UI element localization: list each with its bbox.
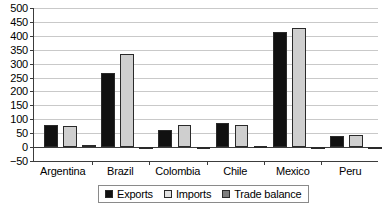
y-axis-tick-label: 400 (10, 30, 28, 41)
bar-groups (35, 8, 378, 161)
bar-group (321, 8, 378, 161)
bar-brazil-exports (101, 73, 115, 148)
bar-chart: 500450400350300250200150100500−50 Argent… (0, 0, 386, 207)
bar-brazil-imports (120, 54, 134, 147)
x-axis-label-mexico: Mexico (264, 165, 322, 178)
y-axis-tick-label: 150 (10, 100, 28, 111)
bar-group (92, 8, 149, 161)
bar-group (35, 8, 92, 161)
x-axis-label-brazil: Brazil (92, 165, 150, 178)
bar-mexico-imports (292, 28, 306, 147)
y-axis-tick-label: 300 (10, 58, 28, 69)
bar-chile-exports (216, 123, 230, 147)
y-axis-tick (30, 133, 34, 134)
legend: ExportsImportsTrade balance (98, 185, 309, 203)
x-axis-label-colombia: Colombia (149, 165, 207, 178)
bar-peru-trade-balance (368, 147, 382, 149)
y-axis-tick (30, 91, 34, 92)
y-axis-tick (30, 64, 34, 65)
legend-label: Imports (176, 188, 211, 200)
bar-colombia-imports (178, 125, 192, 148)
bar-argentina-exports (44, 125, 58, 147)
y-axis-tick-label: 200 (10, 86, 28, 97)
bar-argentina-imports (63, 126, 77, 147)
y-axis-tick-label: 100 (10, 114, 28, 125)
y-axis-tick-label: 0 (22, 142, 28, 153)
y-axis-tick (30, 36, 34, 37)
y-axis-tick-label: 500 (10, 3, 28, 14)
bar-group (264, 8, 321, 161)
legend-item-exports[interactable]: Exports (105, 188, 153, 200)
bar-colombia-exports (158, 130, 172, 147)
bar-group-bars (35, 8, 92, 161)
y-axis-tick (30, 119, 34, 120)
y-axis-tick-label: −50 (10, 156, 28, 167)
y-axis-tick-label: 250 (10, 72, 28, 83)
bar-peru-imports (349, 135, 363, 147)
x-axis-label-chile: Chile (207, 165, 265, 178)
bar-group (149, 8, 206, 161)
bar-mexico-exports (273, 32, 287, 147)
y-axis-tick (30, 105, 34, 106)
y-axis-tick-label: 350 (10, 44, 28, 55)
bar-chile-imports (235, 125, 249, 148)
y-axis-tick (30, 22, 34, 23)
y-axis-tick-label: 450 (10, 16, 28, 27)
legend-label: Exports (117, 188, 153, 200)
y-axis-tick (30, 161, 34, 162)
y-axis-tick (30, 8, 34, 9)
legend-swatch-icon (222, 190, 230, 198)
legend-swatch-icon (105, 190, 113, 198)
bar-group-bars (321, 8, 378, 161)
bar-group-bars (207, 8, 264, 161)
y-axis-tick (30, 78, 34, 79)
bar-group-bars (149, 8, 206, 161)
legend-item-imports[interactable]: Imports (164, 188, 211, 200)
x-axis-labels: ArgentinaBrazilColombiaChileMexicoPeru (34, 165, 379, 178)
legend-item-trade-balance[interactable]: Trade balance (222, 188, 301, 200)
y-axis-tick-label: 50 (16, 128, 28, 139)
y-axis-tick (30, 50, 34, 51)
bar-group-bars (92, 8, 149, 161)
legend-label: Trade balance (234, 188, 301, 200)
bar-group-bars (264, 8, 321, 161)
y-axis-tick (30, 147, 34, 148)
legend-swatch-icon (164, 190, 172, 198)
bar-peru-exports (330, 136, 344, 147)
plot-area: 500450400350300250200150100500−50 (33, 8, 378, 162)
x-axis-label-peru: Peru (322, 165, 380, 178)
bar-group (207, 8, 264, 161)
x-axis-label-argentina: Argentina (34, 165, 92, 178)
